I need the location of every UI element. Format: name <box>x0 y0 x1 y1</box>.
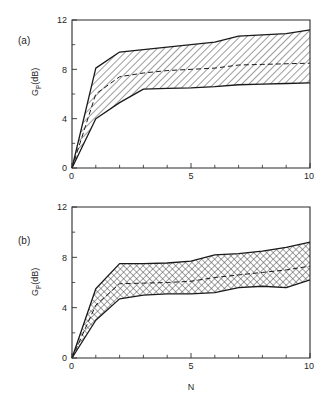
panel-b-label: (b) <box>18 235 30 246</box>
panel-a-plot: (a) GP(dB) 048120510 <box>0 0 328 202</box>
panel-a-label: (a) <box>18 35 30 46</box>
panel-b-plot: (b) GP(dB) 048120510 N <box>0 200 328 404</box>
y-tick-label: 8 <box>62 65 67 75</box>
panel-b-x-axis-title: N <box>188 382 195 392</box>
x-tick-label: 0 <box>69 361 74 371</box>
panel-a-y-axis-title: GP(dB) <box>30 68 42 96</box>
y-tick-label: 0 <box>62 353 67 363</box>
x-tick-label: 10 <box>304 361 314 371</box>
x-tick-label: 0 <box>69 171 74 181</box>
y-tick-label: 12 <box>57 15 67 25</box>
panel-b-y-axis-title: GP(dB) <box>30 268 42 296</box>
y-axis-title-main: G <box>30 89 40 96</box>
y-tick-label: 4 <box>62 303 67 313</box>
y-tick-label: 4 <box>62 114 67 124</box>
x-tick-label: 5 <box>188 171 193 181</box>
panel-a-band <box>72 30 310 168</box>
y-tick-label: 0 <box>62 163 67 173</box>
y-tick-label: 12 <box>57 202 67 212</box>
y-axis-title-unit: (dB) <box>30 68 40 85</box>
x-tick-label: 5 <box>188 361 193 371</box>
figure-container: (a) GP(dB) 048120510 (b) GP(dB) <box>0 0 328 404</box>
y-axis-title-unit: (dB) <box>30 268 40 285</box>
y-tick-label: 8 <box>62 253 67 263</box>
panel-b: (b) GP(dB) 048120510 N <box>0 200 328 404</box>
y-axis-title-main: G <box>30 289 40 296</box>
panel-a: (a) GP(dB) 048120510 <box>0 0 328 202</box>
panel-b-band <box>72 242 310 358</box>
x-tick-label: 10 <box>304 171 314 181</box>
